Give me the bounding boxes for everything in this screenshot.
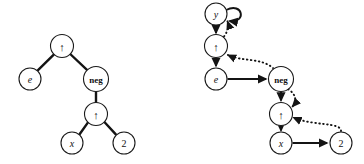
diagram-svg: ↑ e neg ↑ x 2	[0, 0, 364, 164]
node-L1-label: ↑	[59, 41, 65, 53]
node-L1[interactable]: ↑	[51, 35, 74, 58]
edge-R1-R0-dotted	[224, 22, 228, 37]
node-R3[interactable]: neg	[269, 67, 294, 92]
node-R0-label: y	[213, 9, 219, 20]
edge-L1-L3	[70, 54, 88, 71]
node-R6[interactable]: 2	[330, 132, 352, 154]
node-R3-label: neg	[274, 75, 288, 85]
node-L3[interactable]: neg	[84, 67, 109, 92]
edge-R6-R4-dotted	[294, 118, 342, 132]
node-R5[interactable]: x	[270, 132, 292, 154]
edge-R0-self-loop	[226, 8, 241, 21]
node-L5[interactable]: x	[61, 132, 83, 154]
edge-L1-L2	[38, 54, 55, 70]
node-L5-label: x	[69, 138, 75, 149]
edge-R3-R4-dotted	[288, 89, 295, 107]
node-L4[interactable]: ↑	[85, 103, 108, 126]
right-panel-nodes: y ↑ e neg ↑ x	[205, 3, 353, 154]
node-R1-label: ↑	[213, 41, 219, 53]
node-L3-label: neg	[89, 75, 103, 85]
node-R2[interactable]: e	[205, 68, 227, 90]
node-R5-label: x	[278, 138, 284, 149]
node-R4[interactable]: ↑	[270, 103, 293, 126]
node-R6-label: 2	[339, 138, 344, 149]
edge-L4-L5	[80, 122, 88, 134]
node-R4-label: ↑	[278, 109, 284, 121]
edge-L4-L6	[104, 122, 115, 134]
node-R1[interactable]: ↑	[205, 35, 228, 58]
node-L6[interactable]: 2	[113, 132, 135, 154]
edge-R3-R1-dotted	[228, 55, 274, 69]
node-R2-label: e	[214, 74, 219, 85]
node-L4-label: ↑	[93, 109, 99, 121]
figure-canvas: ↑ e neg ↑ x 2	[0, 0, 364, 164]
node-L2[interactable]: e	[19, 68, 41, 90]
node-L2-label: e	[28, 74, 33, 85]
left-panel-nodes: ↑ e neg ↑ x 2	[19, 35, 135, 155]
node-L6-label: 2	[122, 138, 127, 149]
node-R0[interactable]: y	[205, 3, 227, 25]
